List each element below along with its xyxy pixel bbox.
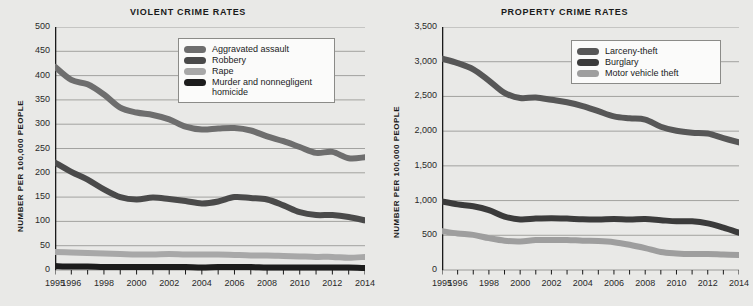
y-tick-label: 200 — [7, 167, 50, 177]
x-tick-label: 2010 — [660, 278, 692, 288]
legend-swatch — [577, 59, 599, 66]
legend-label: Aggravated assault — [212, 44, 289, 54]
y-tick-label: 500 — [7, 21, 50, 31]
legend-label: Robbery — [212, 55, 246, 65]
y-tick-label: 100 — [7, 215, 50, 225]
legend-label: Murder and nonnegligent homicide — [212, 77, 328, 97]
legend-swatch — [577, 70, 599, 77]
violent-crime-panel: VIOLENT CRIME RATES NUMBER PER 100,000 P… — [0, 0, 376, 306]
y-tick-label: 150 — [7, 191, 50, 201]
legend-label: Rape — [212, 66, 234, 76]
property-chart-title: PROPERTY CRIME RATES — [376, 7, 753, 17]
series-line — [55, 266, 365, 268]
violent-legend: Aggravated assaultRobberyRapeMurder and … — [178, 38, 335, 103]
property-legend: Larceny-theftBurglaryMotor vehicle theft — [571, 40, 721, 84]
legend-swatch — [184, 46, 206, 53]
legend-item[interactable]: Murder and nonnegligent homicide — [184, 77, 328, 97]
x-tick-label: 1998 — [473, 278, 505, 288]
property-crime-panel: PROPERTY CRIME RATES NUMBER PER 100,000 … — [376, 0, 753, 306]
x-tick-label: 2012 — [692, 278, 724, 288]
x-tick-label: 2008 — [629, 278, 661, 288]
series-line — [442, 201, 739, 232]
legend-label: Larceny-theft — [605, 46, 658, 56]
y-tick-label: 3,500 — [394, 21, 437, 31]
y-tick-label: 350 — [7, 94, 50, 104]
legend-swatch — [184, 57, 206, 64]
legend-swatch — [577, 48, 599, 55]
x-tick-label: 2008 — [251, 278, 283, 288]
y-tick-label: 500 — [394, 229, 437, 239]
legend-swatch — [184, 79, 206, 86]
y-tick-label: 400 — [7, 70, 50, 80]
y-tick-label: 0 — [7, 264, 50, 274]
x-tick-label: 2010 — [284, 278, 316, 288]
y-tick-label: 1,000 — [394, 195, 437, 205]
x-tick-label: 1998 — [88, 278, 120, 288]
x-tick-label: 2002 — [535, 278, 567, 288]
legend-swatch — [184, 68, 206, 75]
y-tick-label: 0 — [394, 264, 437, 274]
x-tick-label: 2004 — [567, 278, 599, 288]
y-tick-label: 1,500 — [394, 160, 437, 170]
y-tick-label: 50 — [7, 240, 50, 250]
y-tick-label: 3,000 — [394, 56, 437, 66]
legend-item[interactable]: Robbery — [184, 55, 328, 65]
legend-label: Motor vehicle theft — [605, 68, 679, 78]
x-tick-label: 2006 — [598, 278, 630, 288]
x-tick-label: 2002 — [153, 278, 185, 288]
x-tick-label: 1996 — [442, 278, 474, 288]
series-line — [55, 163, 365, 221]
legend-label: Burglary — [605, 57, 639, 67]
y-tick-label: 300 — [7, 118, 50, 128]
x-tick-label: 1996 — [55, 278, 87, 288]
x-tick-label: 2000 — [121, 278, 153, 288]
legend-item[interactable]: Motor vehicle theft — [577, 68, 714, 78]
legend-item[interactable]: Burglary — [577, 57, 714, 67]
x-tick-label: 2014 — [723, 278, 753, 288]
legend-item[interactable]: Aggravated assault — [184, 44, 328, 54]
x-tick-label: 2012 — [316, 278, 348, 288]
y-tick-label: 2,500 — [394, 90, 437, 100]
y-tick-label: 450 — [7, 45, 50, 55]
legend-item[interactable]: Rape — [184, 66, 328, 76]
series-line — [442, 231, 739, 255]
x-tick-label: 2004 — [186, 278, 218, 288]
y-tick-label: 2,000 — [394, 125, 437, 135]
x-tick-label: 2006 — [218, 278, 250, 288]
crime-rate-charts: VIOLENT CRIME RATES NUMBER PER 100,000 P… — [0, 0, 753, 306]
violent-chart-title: VIOLENT CRIME RATES — [0, 7, 376, 17]
y-tick-label: 250 — [7, 143, 50, 153]
x-tick-label: 2000 — [504, 278, 536, 288]
legend-item[interactable]: Larceny-theft — [577, 46, 714, 56]
series-line — [55, 252, 365, 258]
